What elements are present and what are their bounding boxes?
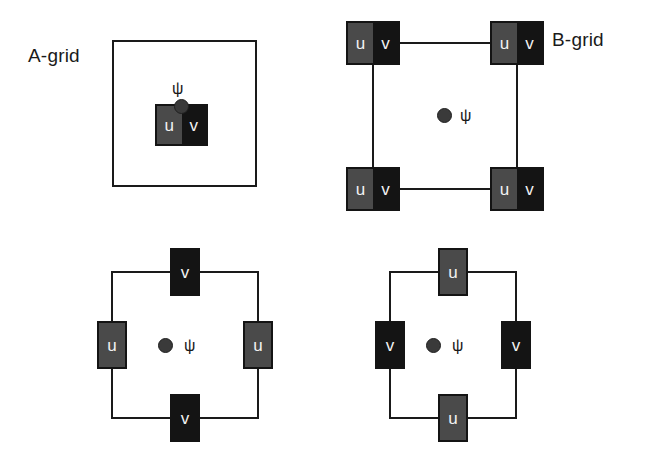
b-grid-corner-top-left: u v <box>346 21 400 65</box>
b-grid-u-cell: u <box>492 169 517 209</box>
b-grid-corner-bottom-right: u v <box>490 167 544 211</box>
c-grid-v-bottom: v <box>170 394 200 442</box>
c-grid-v-top: v <box>170 248 200 296</box>
b-grid-v-cell: v <box>517 23 542 63</box>
d-grid-v-left: v <box>375 321 405 369</box>
b-grid-psi-dot <box>437 108 452 123</box>
d-grid-v-right: v <box>501 321 531 369</box>
c-grid-u-left: u <box>97 321 127 369</box>
c-grid-u-right: u <box>243 321 273 369</box>
panel-b-label: B-grid <box>552 29 604 51</box>
b-grid-u-cell: u <box>348 23 373 63</box>
panel-b-grid: B-grid u v u v u v u v ψ <box>323 0 645 226</box>
c-grid-psi-dot <box>158 338 173 353</box>
b-grid-v-cell: v <box>373 169 398 209</box>
panel-c-grid: C-grid v u u v ψ <box>0 226 323 451</box>
b-grid-corner-bottom-left: u v <box>346 167 400 211</box>
d-grid-psi-dot <box>426 338 441 353</box>
d-grid-u-top: u <box>438 248 468 296</box>
b-grid-corner-top-right: u v <box>490 21 544 65</box>
b-grid-psi-label: ψ <box>460 108 471 124</box>
b-grid-v-cell: v <box>373 23 398 63</box>
panel-a-label: A-grid <box>28 45 80 67</box>
b-grid-u-cell: u <box>492 23 517 63</box>
a-grid-psi-dot <box>174 99 189 114</box>
b-grid-u-cell: u <box>348 169 373 209</box>
d-grid-u-bottom: u <box>438 394 468 442</box>
c-grid-psi-label: ψ <box>184 338 195 354</box>
a-grid-psi-label: ψ <box>172 81 183 97</box>
d-grid-psi-label: ψ <box>452 338 463 354</box>
b-grid-v-cell: v <box>517 169 542 209</box>
panel-a-grid: A-grid ψ u v <box>0 0 323 226</box>
panel-d-grid: D-grid u v v u ψ <box>323 226 645 451</box>
